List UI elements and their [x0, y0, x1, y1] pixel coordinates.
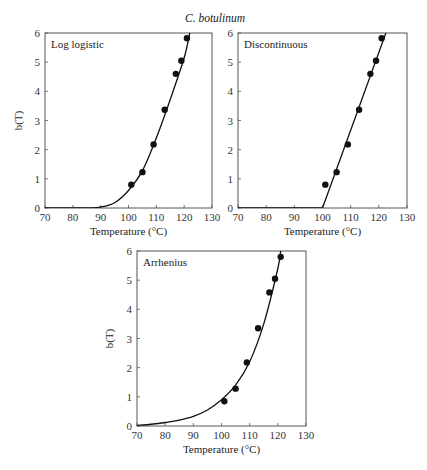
y-tick-label: 0 [228, 202, 234, 214]
panel-title: Discontinuous [244, 38, 308, 50]
x-tick-label: 110 [343, 211, 360, 223]
fit-curve [238, 33, 386, 208]
y-tick-label: 5 [35, 56, 41, 68]
plot-frame [238, 33, 407, 208]
discontinuous-chart: 7080901001101201300123456Temperature (°C… [228, 27, 416, 238]
x-tick-label: 130 [204, 211, 221, 223]
plot-frame [45, 33, 212, 208]
y-tick-label: 4 [35, 85, 41, 97]
x-tick-label: 100 [213, 429, 230, 441]
y-tick-label: 4 [228, 85, 234, 97]
x-tick-label: 100 [314, 211, 331, 223]
x-tick-label: 120 [270, 429, 287, 441]
panel-title: Log logistic [51, 38, 104, 50]
y-tick-label: 0 [35, 202, 41, 214]
x-tick-label: 70 [132, 429, 144, 441]
x-axis-label: Temperature (°C) [90, 225, 168, 238]
data-point [255, 325, 261, 331]
panel-title: Arrhenius [143, 256, 187, 268]
figure-title: C. botulinum [185, 12, 245, 24]
x-tick-label: 130 [298, 429, 315, 441]
y-tick-label: 3 [127, 333, 133, 345]
y-axis-label: b(T) [103, 328, 116, 348]
x-tick-label: 80 [160, 429, 172, 441]
y-tick-label: 6 [228, 27, 234, 39]
fit-curve [137, 251, 281, 425]
x-tick-label: 70 [40, 211, 52, 223]
y-tick-label: 6 [35, 27, 41, 39]
y-tick-label: 1 [35, 173, 41, 185]
x-tick-label: 80 [261, 211, 273, 223]
y-tick-label: 4 [127, 303, 133, 315]
y-tick-label: 0 [127, 420, 133, 432]
x-tick-label: 80 [67, 211, 79, 223]
x-tick-label: 110 [148, 211, 165, 223]
data-point [322, 181, 328, 187]
figure: C. botulinum 7080901001101201300123456Te… [0, 0, 427, 470]
log-logistic-chart: 7080901001101201300123456Temperature (°C… [12, 27, 221, 238]
x-tick-label: 70 [233, 211, 245, 223]
arrhenius-chart: 7080901001101201300123456Temperature (°C… [103, 245, 315, 456]
y-tick-label: 5 [127, 274, 133, 286]
y-tick-label: 5 [228, 56, 234, 68]
x-tick-label: 120 [371, 211, 388, 223]
x-tick-label: 90 [289, 211, 301, 223]
x-axis-label: Temperature (°C) [284, 225, 362, 238]
y-tick-label: 3 [228, 115, 234, 127]
y-tick-label: 1 [127, 391, 133, 403]
y-tick-label: 2 [127, 362, 133, 374]
fit-curve [45, 33, 190, 208]
x-tick-label: 100 [120, 211, 137, 223]
x-axis-label: Temperature (°C) [183, 443, 261, 456]
x-tick-label: 130 [399, 211, 416, 223]
y-tick-label: 3 [35, 115, 41, 127]
x-tick-label: 110 [242, 429, 259, 441]
y-tick-label: 6 [127, 245, 133, 257]
x-tick-label: 90 [95, 211, 107, 223]
y-tick-label: 1 [228, 173, 234, 185]
x-tick-label: 120 [176, 211, 193, 223]
x-tick-label: 90 [188, 429, 200, 441]
y-tick-label: 2 [35, 144, 41, 156]
y-axis-label: b(T) [12, 110, 25, 130]
y-tick-label: 2 [228, 144, 234, 156]
